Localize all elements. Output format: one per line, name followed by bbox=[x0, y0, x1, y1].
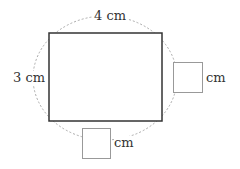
unit-label-bottom: cm bbox=[114, 136, 134, 150]
unit-label-right: cm bbox=[206, 71, 226, 85]
answer-box-bottom[interactable] bbox=[82, 128, 111, 159]
answer-box-right[interactable] bbox=[173, 62, 203, 93]
height-label: 3 cm bbox=[12, 71, 46, 85]
rectangle-shape bbox=[49, 33, 162, 121]
width-label: 4 cm bbox=[92, 9, 128, 23]
